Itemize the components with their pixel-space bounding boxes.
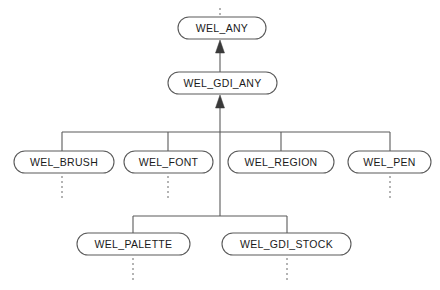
- node-label: WEL_PEN: [363, 156, 415, 168]
- node-wel-font[interactable]: WEL_FONT: [124, 151, 213, 173]
- stock-subclass-bus: [133, 216, 287, 233]
- node-wel-any[interactable]: WEL_ANY: [178, 17, 266, 39]
- node-label: WEL_ANY: [196, 22, 248, 34]
- arrow-head-icon: [216, 95, 225, 108]
- node-label: WEL_GDI_ANY: [184, 77, 262, 89]
- node-wel-region[interactable]: WEL_REGION: [228, 151, 334, 173]
- node-wel-pen[interactable]: WEL_PEN: [348, 151, 431, 173]
- diagram-canvas: WEL_ANY WEL_GDI_ANY WEL_BRUSH WEL_FONT W…: [0, 0, 440, 290]
- node-wel-gdi-any[interactable]: WEL_GDI_ANY: [168, 72, 277, 94]
- node-label: WEL_GDI_STOCK: [240, 238, 333, 250]
- node-label: WEL_FONT: [139, 156, 199, 168]
- arrow-to-wel-any: [216, 40, 225, 72]
- node-label: WEL_REGION: [244, 156, 317, 168]
- node-label: WEL_BRUSH: [30, 156, 98, 168]
- node-wel-brush[interactable]: WEL_BRUSH: [14, 151, 114, 173]
- gdi-subclass-bus: [62, 132, 390, 151]
- node-wel-palette[interactable]: WEL_PALETTE: [77, 233, 190, 255]
- node-label: WEL_PALETTE: [95, 238, 173, 250]
- inheritance-diagram: WEL_ANY WEL_GDI_ANY WEL_BRUSH WEL_FONT W…: [0, 0, 440, 290]
- node-wel-gdi-stock[interactable]: WEL_GDI_STOCK: [222, 233, 351, 255]
- arrow-head-icon: [216, 40, 225, 53]
- arrow-to-wel-gdi-any: [216, 95, 225, 216]
